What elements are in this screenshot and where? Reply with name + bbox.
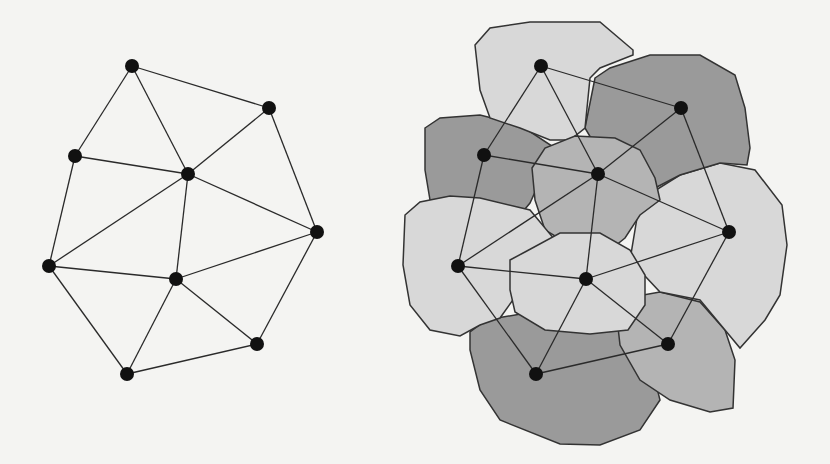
left-edge-cf bbox=[49, 156, 75, 266]
left-node-g bbox=[169, 272, 183, 286]
left-node-h bbox=[250, 337, 264, 351]
left-edge-fi bbox=[49, 266, 127, 374]
left-edge-gh bbox=[176, 279, 257, 344]
right-node-i bbox=[529, 367, 543, 381]
left-edge-bd bbox=[188, 108, 269, 174]
left-edge-cd bbox=[75, 156, 188, 174]
right-node-f bbox=[451, 259, 465, 273]
left-edge-ad bbox=[132, 66, 188, 174]
left-edge-ab bbox=[132, 66, 269, 108]
left-node-f bbox=[42, 259, 56, 273]
left-graph-edges bbox=[49, 66, 317, 374]
left-node-c bbox=[68, 149, 82, 163]
left-node-e bbox=[310, 225, 324, 239]
left-edge-ac bbox=[75, 66, 132, 156]
right-node-g bbox=[579, 272, 593, 286]
right-node-e bbox=[722, 225, 736, 239]
left-node-a bbox=[125, 59, 139, 73]
left-edge-gi bbox=[127, 279, 176, 374]
right-node-h bbox=[661, 337, 675, 351]
left-node-d bbox=[181, 167, 195, 181]
right-node-b bbox=[674, 101, 688, 115]
left-edge-df bbox=[49, 174, 188, 266]
left-edge-fg bbox=[49, 266, 176, 279]
left-node-i bbox=[120, 367, 134, 381]
left-edge-dg bbox=[176, 174, 188, 279]
right-node-c bbox=[477, 148, 491, 162]
left-edge-ih bbox=[127, 344, 257, 374]
graph-diagram bbox=[0, 0, 830, 464]
left-node-b bbox=[262, 101, 276, 115]
right-node-d bbox=[591, 167, 605, 181]
right-node-a bbox=[534, 59, 548, 73]
